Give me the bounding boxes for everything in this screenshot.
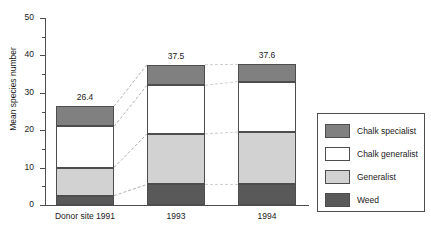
plot-area (45, 18, 310, 205)
bar-segment (238, 82, 296, 132)
bar-total-label: 26.4 (50, 92, 120, 102)
legend-label: Generalist (357, 172, 396, 182)
legend-swatch (325, 124, 350, 138)
legend-swatch (325, 170, 350, 184)
bar-2 (147, 18, 205, 205)
legend-label: Chalk generalist (357, 149, 418, 159)
y-tick-label: 30 (12, 88, 34, 97)
bar-segment (56, 126, 114, 167)
bar-1 (56, 18, 114, 205)
y-tick-label: 40 (12, 50, 34, 59)
y-tick-label: 50 (12, 13, 34, 22)
bar-segment (56, 196, 114, 205)
legend-item: Weed (325, 192, 379, 208)
bar-total-label: 37.6 (232, 50, 302, 60)
bar-segment (238, 132, 296, 184)
y-tick-major (40, 205, 45, 206)
bar-segment (147, 85, 205, 134)
legend-swatch (325, 147, 350, 161)
x-axis-label: 1994 (207, 211, 327, 221)
legend-item: Generalist (325, 169, 396, 185)
bar-segment (56, 106, 114, 126)
chart-legend: Chalk specialistChalk generalistGenerali… (317, 113, 425, 212)
bar-3 (238, 18, 296, 205)
bar-segment (56, 168, 114, 196)
legend-label: Chalk specialist (357, 126, 416, 136)
bar-segment (238, 184, 296, 205)
bar-segment (147, 184, 205, 205)
y-tick-label: 10 (12, 163, 34, 172)
y-tick-label: 0 (12, 200, 34, 209)
bar-segment (147, 65, 205, 86)
y-tick-label: 20 (12, 125, 34, 134)
x-axis-line (45, 205, 309, 206)
bar-total-label: 37.5 (141, 51, 211, 61)
chart-figure: Mean species number 01020304050 Donor si… (0, 0, 431, 244)
bar-segment (147, 134, 205, 184)
legend-label: Weed (357, 195, 379, 205)
legend-item: Chalk specialist (325, 123, 416, 139)
bar-segment (238, 64, 296, 81)
legend-item: Chalk generalist (325, 146, 418, 162)
legend-swatch (325, 193, 350, 207)
